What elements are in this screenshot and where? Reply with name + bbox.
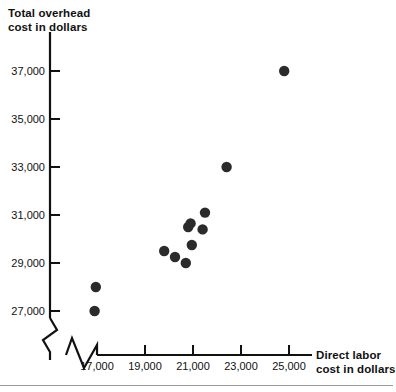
- data-point: [200, 207, 210, 217]
- data-point: [91, 282, 101, 292]
- y-axis-ticks: [50, 71, 60, 311]
- x-axis-tick-label: 25,000: [272, 360, 306, 372]
- y-axis-tick-label: 37,000: [0, 65, 45, 77]
- data-point: [187, 240, 197, 250]
- data-point: [185, 218, 195, 228]
- bottom-divider: [0, 385, 393, 386]
- data-point: [159, 246, 169, 256]
- x-axis-tick-label: 19,000: [128, 360, 162, 372]
- y-axis-tick-label: 29,000: [0, 257, 45, 269]
- data-point: [181, 258, 191, 268]
- data-point: [221, 162, 231, 172]
- data-point: [197, 224, 207, 234]
- x-axis-tick-label: 17,000: [80, 360, 114, 372]
- y-axis-tick-label: 27,000: [0, 305, 45, 317]
- y-axis-tick-label: 33,000: [0, 161, 45, 173]
- data-points-layer: [89, 66, 289, 316]
- x-axis-ticks: [97, 345, 289, 355]
- data-point: [89, 306, 99, 316]
- axis-lines: [43, 32, 312, 368]
- y-axis-tick-label: 35,000: [0, 113, 45, 125]
- data-point: [170, 252, 180, 262]
- x-axis-tick-label: 21,000: [176, 360, 210, 372]
- data-point: [279, 66, 289, 76]
- x-axis-tick-label: 23,000: [224, 360, 258, 372]
- y-axis-tick-label: 31,000: [0, 209, 45, 221]
